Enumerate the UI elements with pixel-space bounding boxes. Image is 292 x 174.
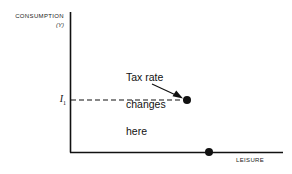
y-axis-title-main: CONSUMPTION bbox=[15, 13, 64, 19]
consumption-leisure-figure: CONSUMPTION (Y) LEISURE I1 Tax rate chan… bbox=[0, 0, 292, 174]
x-axis-title: LEISURE bbox=[236, 156, 286, 164]
y-tick-subscript: 1 bbox=[63, 100, 66, 106]
y-axis-tick-label-i1: I1 bbox=[52, 93, 66, 106]
annotation-line-1: Tax rate bbox=[126, 71, 166, 85]
y-axis-title: CONSUMPTION (Y) bbox=[8, 12, 64, 29]
annotation-text: Tax rate changes here bbox=[126, 57, 166, 152]
leisure-endowment-point bbox=[205, 148, 213, 156]
tax-change-point bbox=[183, 96, 191, 104]
y-axis-title-units: (Y) bbox=[8, 21, 64, 29]
annotation-line-2: changes bbox=[126, 98, 166, 112]
annotation-line-3: here bbox=[126, 125, 166, 139]
